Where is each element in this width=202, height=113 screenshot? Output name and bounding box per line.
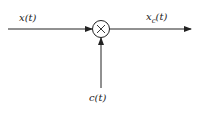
output-label: xc(t) bbox=[146, 12, 167, 25]
input-label: x(t) bbox=[19, 13, 36, 23]
carrier-label: c(t) bbox=[89, 93, 106, 103]
output-label-tail: (t) bbox=[156, 11, 168, 22]
